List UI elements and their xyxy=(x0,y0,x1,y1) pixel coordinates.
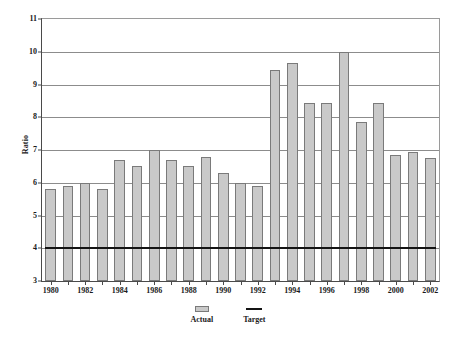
plot-area: 3456789101119801982198419861988199019921… xyxy=(41,18,440,282)
bar-1995 xyxy=(304,103,315,281)
y-axis-tick-label: 10 xyxy=(29,48,37,56)
x-axis-tick-mark xyxy=(68,281,69,285)
y-axis-tick-mark xyxy=(38,281,42,282)
y-axis-tick-label: 6 xyxy=(33,179,37,187)
x-axis-tick-label: 1994 xyxy=(284,287,300,295)
y-axis-tick-mark xyxy=(38,182,42,183)
x-axis-tick-label: 1990 xyxy=(215,287,231,295)
bar-1983 xyxy=(97,189,108,281)
legend-item-target: Target xyxy=(243,306,265,324)
bar-1991 xyxy=(235,183,246,281)
x-axis-tick-mark xyxy=(154,281,155,285)
legend-label-actual: Actual xyxy=(190,316,213,324)
y-axis-title: Ratio xyxy=(21,115,30,175)
bar-1987 xyxy=(166,160,177,281)
bar-1990 xyxy=(218,173,229,281)
y-axis-tick-mark xyxy=(38,19,42,20)
x-axis-tick-mark xyxy=(344,281,345,285)
y-axis-tick-mark xyxy=(38,84,42,85)
y-axis-tick-label: 7 xyxy=(33,146,37,154)
bar-1984 xyxy=(114,160,125,281)
y-axis-tick-mark xyxy=(38,51,42,52)
x-axis-tick-label: 1998 xyxy=(353,287,369,295)
x-axis-tick-mark xyxy=(189,281,190,285)
x-axis-tick-mark xyxy=(379,281,380,285)
y-axis-tick-label: 9 xyxy=(33,81,37,89)
x-axis-tick-mark xyxy=(292,281,293,285)
x-axis-tick-mark xyxy=(258,281,259,285)
x-axis-tick-mark xyxy=(430,281,431,285)
x-axis-tick-mark xyxy=(85,281,86,285)
bar-1989 xyxy=(201,157,212,281)
x-axis-tick-mark xyxy=(137,281,138,285)
y-axis-tick-label: 8 xyxy=(33,113,37,121)
target-line xyxy=(45,247,436,249)
line-swatch-icon xyxy=(246,306,262,312)
y-axis-tick-mark xyxy=(38,248,42,249)
x-axis-tick-label: 1982 xyxy=(77,287,93,295)
x-axis-tick-label: 1988 xyxy=(181,287,197,295)
bar-1988 xyxy=(183,166,194,281)
y-axis-tick-mark xyxy=(38,215,42,216)
x-axis-tick-mark xyxy=(223,281,224,285)
bar-1986 xyxy=(149,150,160,281)
bar-2000 xyxy=(390,155,401,281)
gridline xyxy=(42,85,439,86)
x-axis-tick-mark xyxy=(310,281,311,285)
bar-1981 xyxy=(63,186,74,281)
x-axis-tick-mark xyxy=(51,281,52,285)
bar-1985 xyxy=(132,166,143,281)
legend-label-target: Target xyxy=(243,316,265,324)
x-axis-tick-label: 1984 xyxy=(112,287,128,295)
gridline xyxy=(42,52,439,53)
bar-1982 xyxy=(80,183,91,281)
x-axis-tick-label: 1996 xyxy=(319,287,335,295)
bar-1998 xyxy=(356,122,367,281)
x-axis-tick-mark xyxy=(241,281,242,285)
bar-swatch-icon xyxy=(195,306,209,312)
x-axis-tick-mark xyxy=(102,281,103,285)
bar-1999 xyxy=(373,103,384,281)
ratio-bar-chart: Ratio 3456789101119801982198419861988199… xyxy=(0,0,456,344)
x-axis-tick-mark xyxy=(413,281,414,285)
y-axis-tick-mark xyxy=(38,150,42,151)
x-axis-tick-mark xyxy=(171,281,172,285)
bar-1996 xyxy=(321,103,332,281)
y-axis-tick-label: 3 xyxy=(33,277,37,285)
y-axis-tick-label: 11 xyxy=(29,15,37,23)
bar-1993 xyxy=(270,70,281,281)
x-axis-tick-mark xyxy=(327,281,328,285)
y-axis-tick-mark xyxy=(38,117,42,118)
bar-2002 xyxy=(425,158,436,281)
y-axis-tick-label: 5 xyxy=(33,212,37,220)
bar-1992 xyxy=(252,186,263,281)
bar-1980 xyxy=(45,189,56,281)
x-axis-tick-label: 2000 xyxy=(388,287,404,295)
x-axis-tick-mark xyxy=(396,281,397,285)
x-axis-tick-label: 1986 xyxy=(146,287,162,295)
y-axis-tick-label: 4 xyxy=(33,244,37,252)
x-axis-tick-label: 1980 xyxy=(43,287,59,295)
x-axis-tick-label: 2002 xyxy=(422,287,438,295)
x-axis-tick-mark xyxy=(361,281,362,285)
x-axis-tick-label: 1992 xyxy=(250,287,266,295)
x-axis-tick-mark xyxy=(275,281,276,285)
bar-2001 xyxy=(408,152,419,281)
x-axis-tick-mark xyxy=(120,281,121,285)
chart-legend: Actual Target xyxy=(0,306,456,324)
x-axis-tick-mark xyxy=(206,281,207,285)
legend-item-actual: Actual xyxy=(190,306,213,324)
